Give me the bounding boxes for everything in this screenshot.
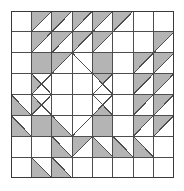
quilt-figure-canvas — [0, 0, 184, 191]
patch-square-r2-c1 — [31, 53, 51, 74]
quilt-block-svg — [11, 11, 174, 178]
patch-square-r5-c4 — [93, 115, 113, 136]
patch-square-r5-c1 — [31, 115, 51, 136]
quilt-block — [11, 11, 174, 178]
patch-square-r2-c4 — [93, 53, 113, 74]
